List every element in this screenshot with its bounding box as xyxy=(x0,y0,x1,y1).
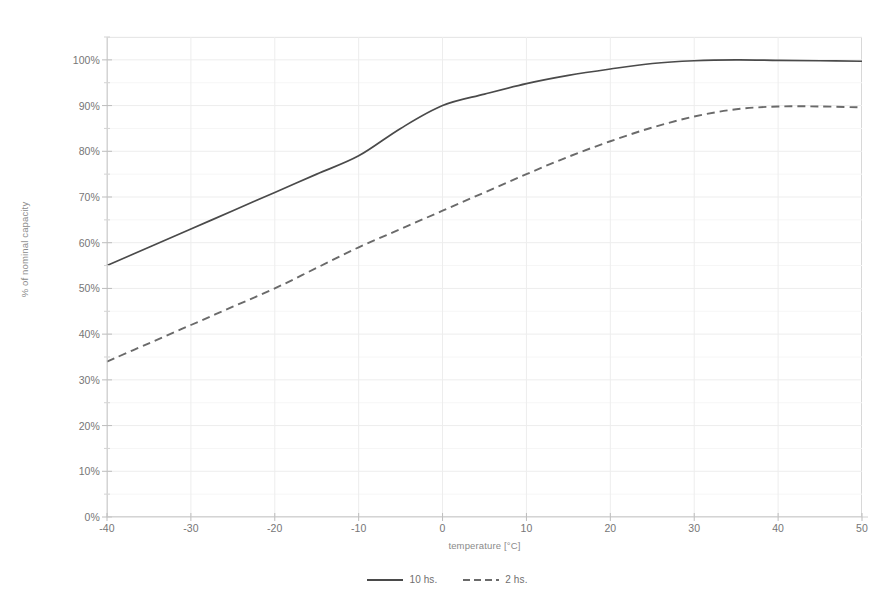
x-tick-label: 0 xyxy=(418,522,468,535)
x-tick-label: 30 xyxy=(669,522,719,535)
x-axis-tick-labels: -40-30-20-1001020304050 xyxy=(107,522,862,538)
x-tick-label: -10 xyxy=(334,522,384,535)
legend-label: 10 hs. xyxy=(409,574,437,585)
x-tick-label: 10 xyxy=(501,522,551,535)
y-tick-label: 20% xyxy=(56,421,100,432)
x-tick-label: 40 xyxy=(753,522,803,535)
y-tick-label: 70% xyxy=(56,192,100,203)
line-chart: 0%10%20%30%40%50%60%70%80%90%100% -40-30… xyxy=(0,0,895,609)
series-line-0 xyxy=(107,60,862,266)
y-axis-title: % of nominal capacity xyxy=(19,180,30,320)
grid-major-vertical xyxy=(191,37,778,517)
x-tick-label: -20 xyxy=(250,522,300,535)
legend-label: 2 hs. xyxy=(505,574,527,585)
solid-line-icon xyxy=(367,576,403,584)
y-tick-label: 90% xyxy=(56,101,100,112)
y-tick-label: 50% xyxy=(56,283,100,294)
series-line-1 xyxy=(107,106,862,361)
y-tick-label: 60% xyxy=(56,238,100,249)
x-tick-label: 20 xyxy=(585,522,635,535)
y-tick-label: 100% xyxy=(56,55,100,66)
y-tick-label: 40% xyxy=(56,329,100,340)
x-tick-label: 50 xyxy=(837,522,887,535)
y-tick-label: 30% xyxy=(56,375,100,386)
chart-legend: 10 hs.2 hs. xyxy=(0,574,895,585)
y-axis-tick-labels: 0%10%20%30%40%50%60%70%80%90%100% xyxy=(48,37,100,517)
x-tick-label: -40 xyxy=(82,522,132,535)
dashed-line-icon xyxy=(463,576,499,584)
plot-canvas xyxy=(107,37,862,517)
legend-item[interactable]: 10 hs. xyxy=(367,574,437,585)
x-axis-title: temperature [°C] xyxy=(107,540,862,551)
legend-item[interactable]: 2 hs. xyxy=(463,574,527,585)
x-tick-label: -30 xyxy=(166,522,216,535)
y-tick-label: 80% xyxy=(56,146,100,157)
y-tick-label: 10% xyxy=(56,466,100,477)
